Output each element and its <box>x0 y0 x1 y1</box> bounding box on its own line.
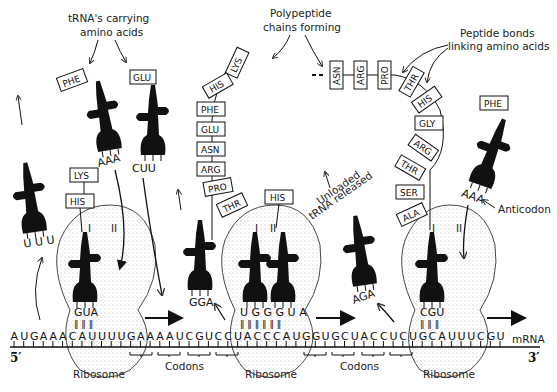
svg-text:SER: SER <box>400 188 418 198</box>
svg-text:C: C <box>429 330 437 343</box>
svg-text:C: C <box>69 330 77 343</box>
svg-text:CUU: CUU <box>132 162 156 175</box>
mrna-label: mRNA <box>512 333 545 345</box>
svg-text:A: A <box>283 330 291 343</box>
svg-text:U: U <box>448 330 456 343</box>
ribosome-label-1: Ribosome <box>73 368 125 380</box>
svg-text:A: A <box>59 330 67 343</box>
svg-text:U: U <box>20 330 28 343</box>
svg-text:chains forming: chains forming <box>263 21 341 33</box>
svg-text:A: A <box>166 330 174 343</box>
svg-text:A: A <box>147 330 155 343</box>
ribosome-label-3: Ribosome <box>423 368 475 380</box>
svg-text:Polypeptide: Polypeptide <box>270 7 331 19</box>
svg-text:C: C <box>341 330 349 343</box>
svg-text:AAA: AAA <box>96 151 122 170</box>
svg-text:C: C <box>254 330 262 343</box>
svg-text:U: U <box>108 330 116 343</box>
svg-text:A: A <box>244 330 252 343</box>
svg-text:‖ ‖ ‖: ‖ ‖ ‖ <box>74 319 93 329</box>
svg-text:LYS: LYS <box>74 171 89 181</box>
label-polypeptide: Polypeptide chains forming <box>263 7 341 66</box>
svg-text:A: A <box>156 330 164 343</box>
svg-text:C: C <box>224 330 232 343</box>
ribosome-1 <box>57 205 156 378</box>
released-trna-gga: GGA <box>178 190 225 320</box>
svg-text:I: I <box>88 222 91 234</box>
svg-text:U: U <box>292 330 300 343</box>
svg-text:AAA: AAA <box>460 186 487 206</box>
svg-text:G: G <box>302 330 311 343</box>
codon-brackets-1 <box>130 352 238 357</box>
svg-text:U: U <box>390 330 398 343</box>
svg-text:C: C <box>263 330 271 343</box>
polypeptide-chain-2: LYS HIS PHE GLU ASN ARG PRO THR HIS III … <box>197 47 307 329</box>
svg-text:G: G <box>312 330 321 343</box>
svg-text:Peptide bonds: Peptide bonds <box>460 27 534 39</box>
svg-text:G: G <box>331 330 340 343</box>
svg-text:U: U <box>497 330 505 343</box>
codon-brackets-2 <box>304 352 412 357</box>
svg-text:G: G <box>419 330 428 343</box>
svg-text:CGU: CGU <box>420 306 444 319</box>
svg-text:U: U <box>176 330 184 343</box>
label-unloaded-trna: Unloaded tRNA released <box>306 168 374 221</box>
svg-text:HIS: HIS <box>70 197 85 207</box>
svg-text:ARG: ARG <box>201 165 220 175</box>
svg-text:A: A <box>40 330 48 343</box>
svg-text:ARG: ARG <box>356 66 366 85</box>
anticodon-label: Anticodon <box>498 203 551 215</box>
svg-text:amino acids: amino acids <box>80 26 143 38</box>
svg-text:G: G <box>30 330 39 343</box>
svg-text:A: A <box>137 330 145 343</box>
svg-text:C: C <box>186 330 194 343</box>
svg-text:U: U <box>322 330 330 343</box>
svg-text:PHE: PHE <box>201 105 219 115</box>
three-prime-label: 3′ <box>528 351 540 365</box>
svg-text:II: II <box>111 222 117 234</box>
ribosome-label-2: Ribosome <box>245 368 297 380</box>
svg-text:A: A <box>438 330 446 343</box>
svg-text:‖ ‖ ‖: ‖ ‖ ‖ <box>420 319 439 329</box>
svg-text:C: C <box>370 330 378 343</box>
svg-text:C: C <box>477 330 485 343</box>
codons-label-2: Codons <box>340 360 379 372</box>
svg-text:U G G G U A: U G G G U A <box>240 306 307 319</box>
svg-text:II: II <box>270 222 276 234</box>
ribosome-3 <box>402 205 496 378</box>
svg-text:G: G <box>487 330 496 343</box>
svg-text:PRO: PRO <box>380 66 390 85</box>
svg-text:U: U <box>98 330 106 343</box>
svg-text:GLY: GLY <box>419 119 436 129</box>
five-prime-label: 5′ <box>10 351 22 365</box>
svg-text:U: U <box>458 330 466 343</box>
svg-text:ASN: ASN <box>332 66 342 85</box>
svg-text:G: G <box>127 330 136 343</box>
svg-text:U: U <box>205 330 213 343</box>
svg-text:GLU: GLU <box>201 125 219 135</box>
label-trna-carrying: tRNA's carrying amino acids <box>68 12 149 63</box>
svg-text:A: A <box>11 330 19 343</box>
svg-text:U: U <box>117 330 125 343</box>
svg-text:GUA: GUA <box>74 306 99 319</box>
svg-text:U: U <box>409 330 417 343</box>
svg-text:U: U <box>88 330 96 343</box>
svg-text:U: U <box>351 330 359 343</box>
svg-text:GLU: GLU <box>133 73 151 83</box>
svg-text:PHE: PHE <box>484 99 502 109</box>
svg-text:A: A <box>79 330 87 343</box>
translation-diagram: AUGAAACAUUUUGAAAAUCGUCCUACCCAUGGUGCUACCU… <box>0 0 557 392</box>
svg-text:A: A <box>360 330 368 343</box>
svg-text:linking amino acids: linking amino acids <box>448 40 549 52</box>
svg-text:HIS: HIS <box>270 193 285 203</box>
svg-text:C: C <box>399 330 407 343</box>
label-peptide-bonds: Peptide bonds linking amino acids <box>403 27 549 82</box>
svg-text:U: U <box>234 330 242 343</box>
svg-text:AGA: AGA <box>350 287 377 307</box>
svg-text:tRNA's carrying: tRNA's carrying <box>68 12 149 24</box>
svg-text:II: II <box>456 222 462 234</box>
svg-text:G: G <box>195 330 204 343</box>
svg-text:‖ ‖ ‖ ‖ ‖ ‖: ‖ ‖ ‖ ‖ ‖ ‖ <box>240 319 281 329</box>
svg-text:C: C <box>215 330 223 343</box>
svg-text:C: C <box>380 330 388 343</box>
